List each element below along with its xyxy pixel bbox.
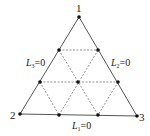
dashed-diag-3 (40, 82, 59, 115)
node (96, 113, 100, 117)
node (57, 48, 61, 52)
node-vertex-1 (77, 15, 81, 19)
node-vertex-2 (18, 112, 22, 116)
edge-bottom (20, 114, 137, 116)
dashed-diag-4 (98, 82, 118, 115)
node (57, 113, 61, 117)
node (96, 48, 100, 52)
vertex-label-2: 2 (10, 109, 16, 121)
triangle-element-diagram: 1 2 3 L3=0 L2=0 L1=0 (0, 0, 150, 136)
node (116, 80, 120, 84)
edge-label-right: L2=0 (110, 57, 130, 69)
edge-label-left: L3=0 (25, 57, 45, 69)
vertex-label-1: 1 (76, 2, 82, 14)
vertex-label-3: 3 (139, 111, 145, 123)
node-center (76, 80, 80, 84)
edge-label-bottom: L1=0 (71, 120, 91, 132)
node (38, 80, 42, 84)
